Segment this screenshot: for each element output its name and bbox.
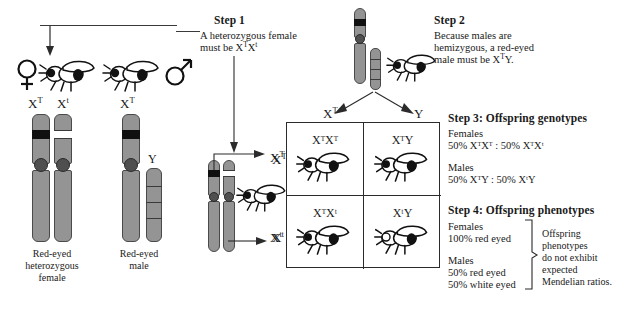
male-allele-X: XT (120, 96, 135, 112)
punnett-col-header-2: Y (414, 106, 423, 122)
step4-males-pheno2: 50% white eyed (448, 279, 516, 292)
step1-line2: must be XTXt (200, 42, 257, 55)
caption-female-l1: Red-eyed (6, 248, 98, 260)
step2-line3: male must be XTY. (434, 54, 514, 67)
step1-line2-pre: must be X (200, 42, 243, 53)
step1-heading: Step 1 (214, 14, 245, 26)
step4-males-label: Males (448, 255, 474, 268)
punnett-row-header-2: Xt (272, 230, 284, 246)
caption-male-parent: Red-eyed male (100, 248, 178, 272)
chromosome-male-Y (146, 168, 162, 242)
step2-heading: Step 2 (434, 14, 465, 26)
punnett-cell-2-genotype: XᵀY (364, 133, 441, 148)
fly-eye-red (111, 69, 119, 77)
step4-note-l3: do not exhibit (542, 252, 623, 264)
step1-sup-t: t (255, 40, 257, 49)
gamete-arrow-female-bottom (226, 236, 274, 246)
centromere-icon (56, 158, 70, 172)
step4-females-label: Females (448, 221, 483, 234)
eye-red (382, 160, 390, 168)
caption-female-l2: heterozygous (6, 260, 98, 272)
step4-note-l5: Mendelian ratios. (542, 276, 623, 288)
punnett-cell-3-fly (294, 223, 356, 255)
eye-white (382, 233, 390, 241)
step1-leader-line (176, 31, 200, 32)
punnett-cell-4: XᵗY (364, 196, 441, 269)
male-allele-sup: T (129, 95, 134, 105)
gamete-chromosome-male-Y (370, 48, 381, 90)
centromere-icon (224, 192, 234, 202)
step3-females-ratio: 50% XᵀXᵀ : 50% XᵀXᵗ (448, 140, 544, 153)
step1-arrow-to-gametes (226, 56, 242, 156)
female-allele-left: XT (28, 96, 43, 112)
female-allele-right: Xt (57, 96, 69, 112)
male-allele-base: X (120, 96, 129, 111)
step4-males-pheno1: 50% red eyed (448, 267, 506, 280)
female-allele-left-base: X (28, 96, 37, 111)
gamete-arrow-female-top (212, 150, 274, 172)
fly-eye-red (47, 69, 55, 77)
figure-canvas: Step 1 A heterozygous female must be XTX… (0, 0, 623, 316)
step2-line2: hemizygous, a red-eyed (434, 42, 534, 55)
fly-male-parent (102, 58, 164, 92)
female-allele-right-sup: t (66, 95, 68, 105)
punnett-cell-3-genotype: XᵀXᵗ (287, 206, 363, 221)
caption-male-l2: male (100, 260, 178, 272)
centromere-icon (209, 192, 219, 202)
centromere-icon (355, 34, 365, 44)
punnett-cell-4-fly (372, 223, 434, 255)
chromosome-male-XT (122, 114, 140, 242)
step2-line3-pre: male must be X (434, 54, 500, 65)
step3-females-label: Females (448, 128, 483, 141)
centromere-icon (124, 158, 138, 172)
row2-base: X (272, 230, 281, 245)
punnett-cell-1-genotype: XᵀXᵀ (287, 133, 363, 148)
row1-base: X (272, 152, 281, 167)
step3-males-label: Males (448, 162, 474, 175)
band-dominant-T (32, 130, 50, 139)
step2-line3-post: Y. (505, 54, 514, 65)
col1-base: X (323, 106, 332, 121)
step4-note-l4: expected (542, 264, 623, 276)
caption-male-l1: Red-eyed (100, 248, 178, 260)
row2-sup: t (281, 229, 283, 239)
caption-female-parent: Red-eyed heterozygous female (6, 248, 98, 284)
step4-brace (524, 219, 538, 291)
band-recessive-t (54, 130, 72, 139)
female-symbol-parent (14, 58, 40, 92)
punnett-cell-1: XᵀXᵀ (287, 123, 363, 195)
chromosome-female-XT (32, 114, 50, 242)
female-allele-left-sup: T (37, 95, 42, 105)
step4-note-l1: Offspring (542, 228, 623, 240)
punnett-cell-3: XᵀXᵗ (287, 196, 363, 269)
step1-leader-horizontal (40, 25, 177, 26)
punnett-cell-4-genotype: XᵗY (364, 206, 441, 221)
eye-red (304, 233, 312, 241)
col1-sup: T (332, 105, 337, 115)
fly-female-parent (38, 58, 100, 92)
step1-arrow-down-female (40, 24, 60, 58)
punnett-cell-2-fly (372, 150, 434, 182)
female-allele-right-base: X (57, 96, 66, 111)
band-dominant-T (122, 130, 140, 139)
punnett-cell-2: XᵀY (364, 123, 441, 195)
step4-note: Offspring phenotypes do not exhibit expe… (542, 228, 623, 288)
caption-female-l3: female (6, 272, 98, 284)
fly-female-gamete (236, 182, 290, 212)
punnett-square: XᵀXᵀ XᵀY (286, 122, 440, 268)
step4-heading: Step 4: Offspring phenotypes (448, 204, 594, 216)
step3-heading: Step 3: Offspring genotypes (448, 112, 587, 124)
punnett-row-header-1: XT (272, 152, 287, 168)
punnett-cell-1-fly (294, 150, 356, 182)
male-allele-Y: Y (148, 152, 157, 167)
gamete-chromosome-male-XT (354, 8, 366, 84)
chromosome-female-Xt (54, 114, 72, 242)
step1-line1: A heterozygous female (200, 30, 297, 43)
step3-males-ratio: 50% XᵀY : 50% XᵗY (448, 174, 536, 187)
step4-note-l2: phenotypes (542, 240, 623, 252)
punnett-col-header-1: XT (323, 106, 338, 122)
fly-male-gamete (386, 52, 440, 82)
step2-line1: Because males are (434, 30, 512, 43)
centromere-icon (34, 158, 48, 172)
step4-females-pheno: 100% red eyed (448, 233, 511, 246)
